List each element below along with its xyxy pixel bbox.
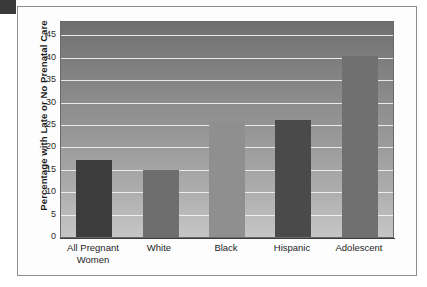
y-axis-tick-label: 35 (34, 74, 56, 84)
y-axis-tick-label: 40 (34, 52, 56, 62)
x-axis-category-labels: All PregnantWomenWhiteBlackHispanicAdole… (60, 242, 394, 278)
x-axis-label-line: White (126, 242, 192, 254)
y-axis-tick-label: 0 (34, 231, 56, 241)
bar-chart: Percentage with Late or No Prenatal Care… (0, 0, 427, 287)
gridline (61, 35, 393, 36)
x-axis-label-line: Adolescent (326, 242, 392, 254)
y-axis-tick-label: 30 (34, 97, 56, 107)
y-axis-tick-label: 45 (34, 29, 56, 39)
y-axis-tick-label: 15 (34, 164, 56, 174)
x-axis-line (60, 238, 395, 239)
y-axis-tick-label: 20 (34, 141, 56, 151)
x-axis-category-label: Adolescent (326, 242, 392, 254)
x-axis-label-line: Women (60, 254, 126, 266)
y-axis-tick-label: 5 (34, 209, 56, 219)
x-axis-category-label: All PregnantWomen (60, 242, 126, 266)
x-axis-label-line: All Pregnant (60, 242, 126, 254)
y-axis-tick-label: 25 (34, 119, 56, 129)
bar (76, 160, 112, 237)
x-axis-category-label: Black (193, 242, 259, 254)
x-axis-category-label: White (126, 242, 192, 254)
bar (143, 170, 179, 237)
x-axis-label-line: Black (193, 242, 259, 254)
bar (275, 120, 311, 237)
bar (342, 56, 378, 237)
x-axis-label-line: Hispanic (259, 242, 325, 254)
plot-area (60, 21, 394, 238)
y-axis-tick-label: 10 (34, 186, 56, 196)
bar (209, 121, 245, 237)
y-axis-tick-labels: 051015202530354045 (34, 21, 56, 238)
x-axis-category-label: Hispanic (259, 242, 325, 254)
